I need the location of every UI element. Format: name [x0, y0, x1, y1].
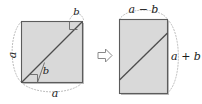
figure-canvas: a a b b a − b a [0, 0, 202, 104]
right-arrow-icon [98, 49, 112, 62]
rectangle-figure: a − b a + b [120, 3, 201, 95]
label-square-left-a: a [6, 52, 19, 59]
label-square-inner-b: b [43, 65, 49, 76]
label-rectangle-right: a + b [171, 50, 201, 63]
transform-arrow [98, 49, 112, 62]
label-square-top-b: b [73, 6, 79, 17]
label-rectangle-top: a − b [129, 3, 159, 16]
square-figure: a a b b [6, 6, 85, 101]
geometric-figure: a a b b a − b a [0, 0, 202, 104]
label-square-bottom-a: a [52, 87, 59, 100]
